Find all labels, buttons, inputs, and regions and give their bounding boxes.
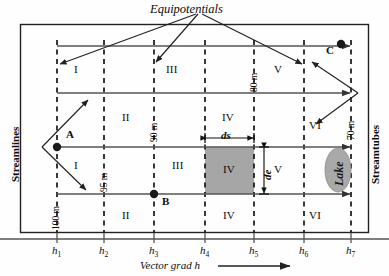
region-label-9: IV: [223, 164, 235, 175]
vector-grad-h-label: Vector grad h: [140, 260, 200, 271]
region-label-8: III: [172, 160, 184, 171]
point-marker-C: [337, 40, 345, 48]
point-label-C: C: [326, 45, 334, 56]
tick-label-h1: h1: [52, 245, 61, 259]
region-label-11: II: [122, 210, 130, 221]
point-label-A: A: [66, 129, 74, 140]
point-label-B: B: [162, 196, 169, 207]
streamlines-leaders: [42, 100, 88, 190]
region-label-13: VI: [309, 210, 321, 221]
region-label-7: I: [74, 160, 78, 171]
streamlines-axis-label: Streamlines: [10, 127, 21, 182]
region-label-2: III: [166, 64, 178, 75]
de-label: de: [262, 170, 273, 180]
region-label-3: V: [274, 64, 282, 75]
streamtubes-axis-label: Streamtubes: [370, 125, 381, 184]
head-label-h7: 70 m: [347, 121, 357, 140]
flow-net-figure: Equipotentials Streamlines Streamtubes 1…: [0, 0, 389, 276]
tick-label-h6: h6: [299, 245, 308, 259]
ds-label: ds: [221, 130, 231, 141]
lake-label: Lake: [333, 161, 345, 186]
equipotential-lines: [57, 40, 351, 232]
head-label-h1: 100 m: [52, 206, 62, 230]
equipotential-leaders: [60, 14, 302, 64]
head-label-h5: 80 m: [250, 73, 260, 92]
region-label-4: II: [122, 112, 130, 123]
figure-canvas: [0, 0, 389, 276]
equipotentials-title: Equipotentials: [150, 3, 223, 16]
region-label-10: V: [274, 164, 282, 175]
point-marker-B: [150, 190, 158, 198]
tick-label-h5: h5: [249, 245, 258, 259]
bottom-axis: [0, 233, 389, 243]
tick-label-h7: h7: [346, 245, 355, 259]
head-label-h2: 95 m: [100, 173, 110, 192]
point-marker-A: [53, 143, 61, 151]
head-label-h3: 90 m: [150, 123, 160, 142]
tick-label-h4: h4: [200, 245, 209, 259]
tick-label-h2: h2: [99, 245, 108, 259]
tick-label-h3: h3: [149, 245, 158, 259]
region-label-6: VI: [309, 120, 321, 131]
region-label-12: IV: [223, 210, 235, 221]
region-label-1: I: [74, 64, 78, 75]
region-label-5: IV: [222, 112, 234, 123]
